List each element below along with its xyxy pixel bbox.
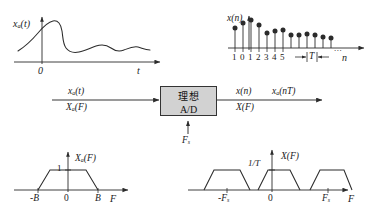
analog-spectrum-label: Xa(F) — [75, 154, 96, 164]
discrete-tick-label-2: 1 — [248, 53, 253, 62]
analog-signal-label: xa(t) — [13, 19, 30, 30]
figure-canvas: 理想 A/D xa(t) 0 t x(n) 1 0 1 2 3 4 5 T ..… — [0, 0, 376, 210]
sampled-spectrum-tick-zero: 0 — [268, 194, 273, 204]
input-top-label: xa(t) — [68, 87, 84, 97]
sampled-spectrum-tick-fs: Fs — [322, 194, 330, 204]
analog-spectrum-tick-b: B — [95, 194, 101, 204]
discrete-tick-label-4: 3 — [264, 53, 269, 62]
analog-spectrum-axes — [14, 152, 128, 192]
discrete-plot-axes — [228, 16, 364, 50]
discrete-tick-label-0: 1 — [232, 53, 237, 62]
discrete-x-axis-label: n — [342, 53, 347, 63]
discrete-tick-label-6: 5 — [280, 53, 285, 62]
discrete-signal-label: x(n) — [227, 14, 242, 24]
analog-plot-axes — [14, 17, 160, 64]
discrete-tick-label-3: 2 — [256, 53, 261, 62]
discrete-ellipsis: ... — [334, 44, 342, 53]
discrete-tick-label-5: 4 — [272, 53, 277, 62]
sampled-spectrum-tick-neg-fs: -Fs — [218, 194, 229, 204]
output-top-label-2: xa(nT) — [272, 87, 296, 97]
discrete-tick-label-1: 0 — [240, 53, 245, 62]
sampled-spectrum-x-axis-label: F — [348, 194, 354, 204]
block-label-line2: A/D — [180, 104, 197, 115]
analog-x-axis-label: t — [137, 66, 140, 76]
sampled-spectrum-replicas — [204, 170, 352, 190]
output-bottom-label: X(F) — [236, 103, 254, 113]
analog-origin-label: 0 — [38, 66, 43, 76]
sampling-period-label: T — [309, 52, 314, 62]
ideal-ad-converter-block[interactable]: 理想 A/D — [160, 86, 217, 116]
block-label-line1: 理想 — [178, 88, 199, 103]
sampling-rate-label: Fs — [182, 136, 190, 146]
output-top-label-1: x(n) — [236, 87, 251, 97]
sampled-spectrum-amplitude-label: 1/T — [248, 159, 260, 168]
analog-spectrum-tick-zero: 0 — [64, 194, 69, 204]
analog-waveform — [18, 21, 150, 53]
analog-spectrum-amplitude-label: 1 — [57, 164, 62, 173]
input-bottom-label: Xa(F) — [66, 103, 87, 113]
sampled-spectrum-label: X(F) — [281, 152, 299, 162]
analog-spectrum-x-axis-label: F — [110, 194, 116, 204]
analog-spectrum-tick-neg-b: -B — [30, 194, 39, 204]
